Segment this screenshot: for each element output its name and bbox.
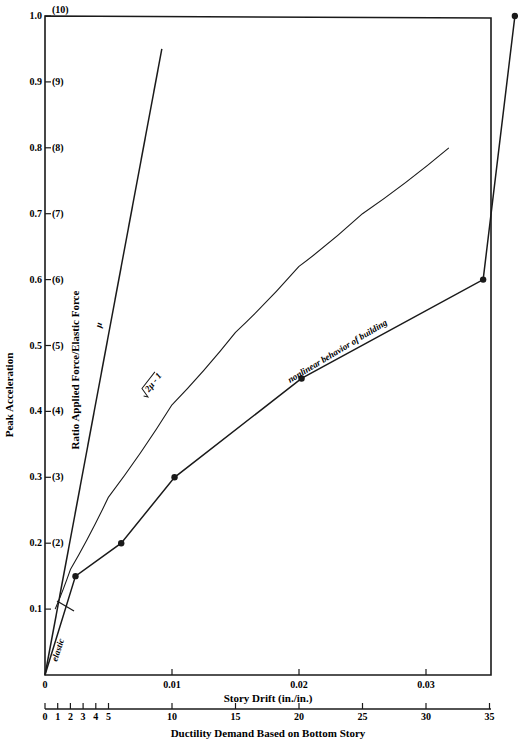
ductility-tick-label: 2 [68, 711, 73, 722]
ductility-tick-label: 0 [43, 711, 48, 722]
y-ratio-label: (4) [52, 405, 64, 417]
y-ratio-label: (7) [52, 208, 64, 220]
y-tick-label: 0.8 [30, 142, 43, 153]
ductility-tick-label: 5 [106, 711, 111, 722]
ductility-tick-label: 4 [93, 711, 98, 722]
ductility-tick-label: 1 [55, 711, 60, 722]
y-ratio-label: (9) [52, 76, 64, 88]
ductility-axis-title: Ductility Demand Based on Bottom Story [171, 727, 366, 739]
y-ratio-label: (2) [52, 537, 64, 549]
ductility-tick-label: 3 [81, 711, 86, 722]
x-tick-label: 0 [43, 679, 48, 690]
x-tick-label: 0.03 [417, 679, 435, 690]
plot-border [45, 16, 491, 675]
y-ratio-label: (3) [52, 471, 64, 483]
x-tick-label: 0.02 [290, 679, 308, 690]
ductility-tick-label: 15 [231, 711, 241, 722]
data-series: elasticμ2μ - 1nonlinear behavior of buil… [45, 13, 518, 675]
data-point [118, 540, 124, 546]
data-point [171, 474, 177, 480]
y-tick-label: 1.0 [30, 10, 43, 21]
chart: elasticμ2μ - 1nonlinear behavior of buil… [0, 0, 518, 747]
y-tick-label: 0.1 [30, 603, 43, 614]
y-ratio-label: (5) [52, 340, 64, 352]
sqrt-label: 2μ - 1 [139, 371, 164, 399]
y-ratio-label: (8) [52, 142, 64, 154]
series-line [45, 16, 515, 675]
data-point [72, 573, 78, 579]
y-tick-label: 0.2 [30, 537, 43, 548]
y-axis-title: Peak Acceleration [3, 353, 15, 438]
y-tick-label: 0.5 [30, 340, 43, 351]
y-ratio-label: (10) [52, 4, 69, 16]
y-tick-label: 0.7 [30, 208, 43, 219]
data-point [512, 13, 518, 19]
axes: 00.010.020.03Story Drift (in./in.)012345… [3, 4, 495, 739]
y-tick-label: 0.6 [30, 274, 43, 285]
data-point [480, 276, 486, 282]
svg-text:2μ - 1: 2μ - 1 [142, 371, 164, 395]
y-tick-label: 0.9 [30, 76, 43, 87]
ductility-tick-label: 35 [485, 711, 495, 722]
nonlinear-label: nonlinear behavior of building [286, 317, 390, 385]
ductility-tick-label: 30 [421, 711, 431, 722]
ductility-tick-label: 10 [167, 711, 177, 722]
y-tick-label: 0.4 [30, 405, 43, 416]
y-axis-secondary-title: Ratio Applied Force/Elastic Force [69, 291, 81, 450]
ductility-tick-label: 20 [294, 711, 304, 722]
mu-label: μ [93, 321, 104, 329]
ductility-tick-label: 25 [358, 711, 368, 722]
plot-frame [45, 16, 491, 675]
y-ratio-label: (6) [52, 274, 64, 286]
series-line [55, 148, 449, 609]
x-tick-label: 0.01 [163, 679, 181, 690]
y-tick-label: 0.3 [30, 471, 43, 482]
